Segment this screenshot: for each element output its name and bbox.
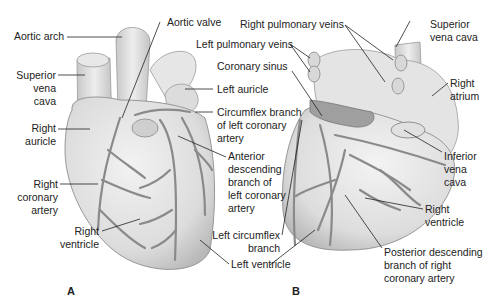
label-circumflex-branch: Circumflex branch of left coronary arter… bbox=[217, 106, 302, 145]
label-anterior-descending-branch: Anterior descending branch of left coron… bbox=[228, 150, 286, 215]
aortic-arch-shape bbox=[116, 27, 150, 110]
label-left-pulmonary-veins: Left pulmonary veins bbox=[196, 38, 293, 51]
label-right-atrium: Right atrium bbox=[450, 77, 479, 103]
label-aortic-arch: Aortic arch bbox=[14, 30, 64, 43]
label-right-pulmonary-veins: Right pulmonary veins bbox=[240, 18, 344, 31]
label-right-auricle: Right auricle bbox=[14, 122, 56, 148]
label-left-circumflex-branch: Left circumflex branch bbox=[200, 229, 280, 255]
panel-label-b: B bbox=[292, 285, 300, 297]
label-left-ventricle: Left ventricle bbox=[231, 258, 291, 271]
label-right-coronary-artery: Right coronary artery bbox=[10, 178, 58, 217]
label-right-ventricle-a: Right ventricle bbox=[55, 225, 99, 251]
label-inferior-vena-cava: Inferior vena cava bbox=[444, 150, 477, 189]
label-right-ventricle-b: Right ventricle bbox=[425, 203, 464, 229]
label-coronary-sinus: Coronary sinus bbox=[217, 60, 288, 73]
label-left-auricle: Left auricle bbox=[217, 83, 268, 96]
label-superior-vena-cava-b: Superior vena cava bbox=[430, 18, 478, 44]
label-superior-vena-cava-a: Superior vena cava bbox=[14, 69, 56, 108]
label-posterior-descending-branch: Posterior descending branch of right cor… bbox=[384, 246, 483, 285]
label-aortic-valve: Aortic valve bbox=[167, 16, 221, 29]
panel-label-a: A bbox=[67, 285, 75, 297]
